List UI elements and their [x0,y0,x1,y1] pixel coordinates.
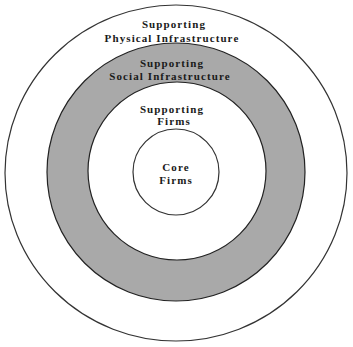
label-social-line1: Supporting [140,57,204,69]
label-core-line1: Core [162,161,189,173]
label-physical-line1: Supporting [142,18,206,30]
label-physical-line2: Physical Infrastructure [105,32,240,44]
label-supporting-firms-line1: Supporting [140,103,204,115]
concentric-diagram: Supporting Physical Infrastructure Suppo… [0,0,353,347]
label-social-line2: Social Infrastructure [109,70,231,82]
label-core-line2: Firms [159,174,193,186]
label-supporting-firms-line2: Firms [157,115,191,127]
